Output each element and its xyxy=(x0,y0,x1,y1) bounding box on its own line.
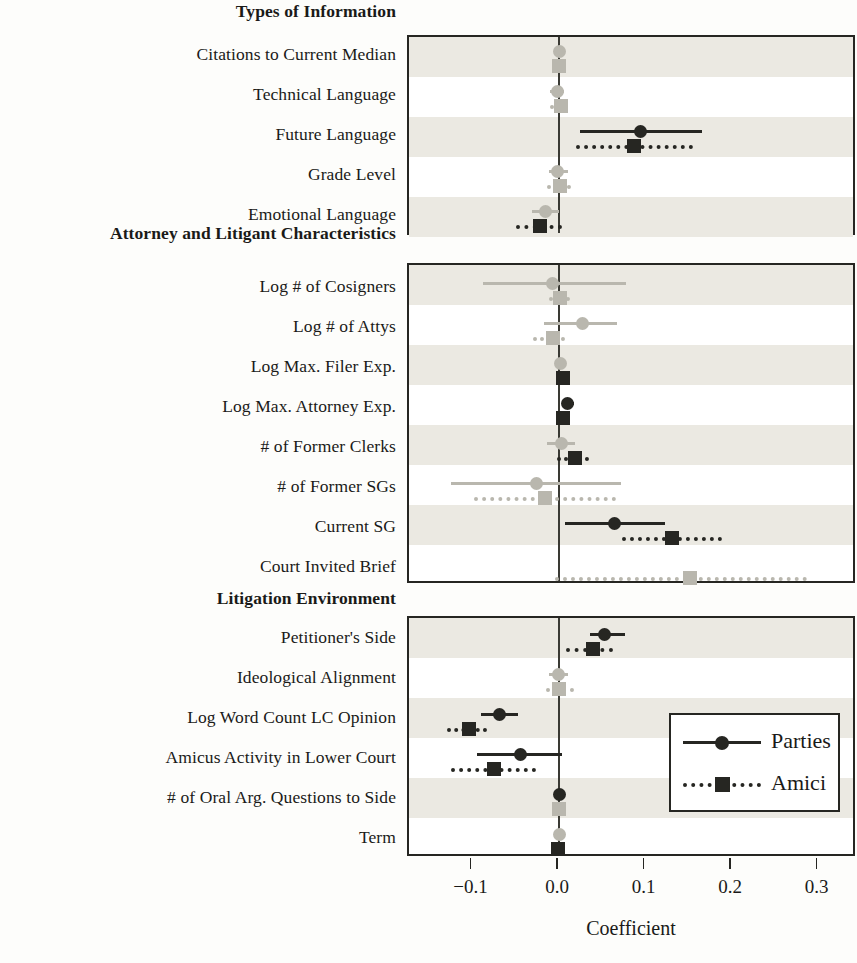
parties-point-estimate xyxy=(553,828,566,841)
panel-types-of-information xyxy=(407,35,855,235)
amici-point-estimate xyxy=(586,642,600,656)
row-label: Log Word Count LC Opinion xyxy=(0,709,396,727)
parties-point-estimate xyxy=(634,125,647,138)
amici-point-estimate xyxy=(683,571,697,585)
row-label: # of Oral Arg. Questions to Side xyxy=(0,789,396,807)
amici-confidence-interval xyxy=(555,577,808,581)
parties-point-estimate xyxy=(551,165,564,178)
row-label: Ideological Alignment xyxy=(0,669,396,687)
row-label: Log Max. Filer Exp. xyxy=(0,358,396,376)
legend-entry-amici: Amici xyxy=(671,765,838,805)
parties-point-estimate xyxy=(552,668,565,681)
row-label: Grade Level xyxy=(0,166,396,184)
amici-point-estimate xyxy=(554,99,568,113)
parties-point-estimate xyxy=(553,45,566,58)
amici-point-estimate xyxy=(553,179,567,193)
zero-reference-line xyxy=(558,618,560,854)
row-band xyxy=(409,265,853,305)
legend-marker-circle-icon xyxy=(715,736,729,750)
row-band xyxy=(409,345,853,385)
row-label: # of Former Clerks xyxy=(0,438,396,456)
amici-point-estimate xyxy=(533,219,547,233)
x-axis-tick xyxy=(816,858,818,869)
amici-point-estimate xyxy=(546,331,560,345)
x-axis-tick-label: 0.3 xyxy=(777,877,857,896)
row-label: Petitioner's Side xyxy=(0,629,396,647)
amici-point-estimate xyxy=(538,491,552,505)
amici-point-estimate xyxy=(556,411,570,425)
amici-point-estimate xyxy=(551,842,565,856)
amici-point-estimate xyxy=(462,722,476,736)
group-heading: Attorney and Litigant Characteristics xyxy=(0,225,396,243)
parties-point-estimate xyxy=(561,397,574,410)
amici-point-estimate xyxy=(552,682,566,696)
row-label: Current SG xyxy=(0,518,396,536)
x-axis-tick xyxy=(729,858,731,869)
amici-point-estimate xyxy=(553,291,567,305)
amici-point-estimate xyxy=(552,802,566,816)
row-label: Log # of Cosigners xyxy=(0,278,396,296)
amici-point-estimate xyxy=(552,59,566,73)
parties-point-estimate xyxy=(539,205,552,218)
amici-point-estimate xyxy=(568,451,582,465)
coefficient-plot-figure: Types of InformationCitations to Current… xyxy=(0,0,857,963)
row-label: Court Invited Brief xyxy=(0,558,396,576)
legend-entry-parties: Parties xyxy=(671,723,838,763)
amici-point-estimate xyxy=(627,139,641,153)
amici-point-estimate xyxy=(665,531,679,545)
row-label: Log # of Attys xyxy=(0,318,396,336)
x-axis-tick xyxy=(470,858,472,869)
row-label: Citations to Current Median xyxy=(0,46,396,64)
parties-point-estimate xyxy=(555,437,568,450)
row-label: Technical Language xyxy=(0,86,396,104)
amici-point-estimate xyxy=(487,762,501,776)
parties-point-estimate xyxy=(530,477,543,490)
x-axis-tick-label: 0.2 xyxy=(690,877,770,896)
row-band xyxy=(409,618,853,658)
legend: Parties Amici xyxy=(669,713,840,812)
parties-point-estimate xyxy=(551,85,564,98)
parties-point-estimate xyxy=(553,788,566,801)
parties-point-estimate xyxy=(493,708,506,721)
row-band xyxy=(409,37,853,77)
row-label: # of Former SGs xyxy=(0,478,396,496)
parties-point-estimate xyxy=(576,317,589,330)
group-heading: Litigation Environment xyxy=(0,590,396,608)
row-band xyxy=(409,425,853,465)
parties-point-estimate xyxy=(608,517,621,530)
row-label: Future Language xyxy=(0,126,396,144)
group-heading: Types of Information xyxy=(0,3,396,21)
row-label: Emotional Language xyxy=(0,206,396,224)
row-label: Amicus Activity in Lower Court xyxy=(0,749,396,767)
x-axis-tick-label: 0.0 xyxy=(517,877,597,896)
x-axis-tick xyxy=(556,858,558,869)
legend-marker-square-icon xyxy=(715,777,730,792)
x-axis-tick-label: −0.1 xyxy=(431,877,511,896)
panel-attorney-litigant-characteristics xyxy=(407,263,855,583)
x-axis-tick xyxy=(643,858,645,869)
row-label: Log Max. Attorney Exp. xyxy=(0,398,396,416)
legend-label-amici: Amici xyxy=(771,769,826,798)
row-label: Term xyxy=(0,829,396,847)
x-axis-title: Coefficient xyxy=(407,918,855,938)
row-band xyxy=(409,197,853,237)
amici-point-estimate xyxy=(556,371,570,385)
x-axis-tick-label: 0.1 xyxy=(604,877,684,896)
legend-label-parties: Parties xyxy=(771,727,831,756)
parties-point-estimate xyxy=(514,748,527,761)
